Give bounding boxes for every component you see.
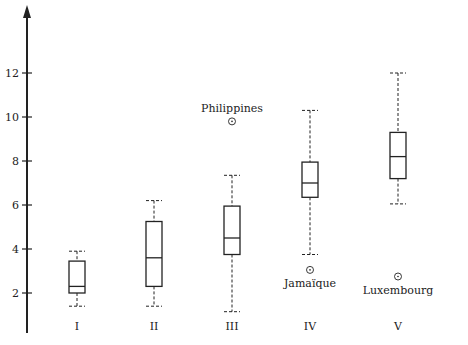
interquartile-box — [224, 206, 240, 254]
axis-arrow-icon — [23, 5, 31, 18]
box-ii — [146, 201, 162, 307]
box-plot-series: PhilippinesJamaïqueLuxembourg — [69, 73, 433, 312]
interquartile-box — [69, 261, 85, 293]
y-tick-label: 2 — [12, 287, 19, 300]
box-i — [69, 251, 85, 306]
category-label: II — [150, 320, 159, 333]
category-label: III — [225, 320, 238, 333]
outlier-label: Jamaïque — [283, 277, 336, 290]
box-plot-chart: 24681012 PhilippinesJamaïqueLuxembourg I… — [0, 0, 468, 345]
interquartile-box — [390, 132, 406, 178]
category-label: IV — [304, 320, 317, 333]
outlier-label: Luxembourg — [363, 284, 434, 297]
interquartile-box — [302, 162, 318, 197]
y-tick-label: 12 — [5, 67, 19, 80]
outlier-dot — [231, 121, 233, 123]
outlier-label: Philippines — [201, 102, 263, 115]
box-iv: Jamaïque — [283, 110, 336, 290]
category-labels: IIIIIIIVV — [75, 320, 403, 333]
y-tick-label: 10 — [5, 111, 19, 124]
box-v: Luxembourg — [363, 73, 434, 297]
interquartile-box — [146, 222, 162, 287]
y-tick-label: 8 — [12, 155, 19, 168]
y-tick-label: 4 — [12, 243, 19, 256]
y-tick-label: 6 — [12, 199, 19, 212]
y-axis: 24681012 — [5, 5, 32, 333]
category-label: I — [75, 320, 79, 333]
box-iii: Philippines — [201, 102, 263, 311]
outlier-dot — [397, 276, 399, 278]
outlier-dot — [309, 269, 311, 271]
category-label: V — [393, 320, 403, 333]
